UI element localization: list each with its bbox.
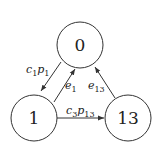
edge-label-e13: e13 [88, 79, 105, 94]
node-0: 0 [57, 22, 103, 68]
node-1: 1 [11, 95, 57, 141]
edge-label-c3p13: c3p13 [66, 104, 95, 119]
node-1-label: 1 [29, 108, 40, 128]
node-13: 13 [105, 95, 151, 141]
node-13-label: 13 [117, 108, 139, 128]
edge-label-c1p1: c1p1 [26, 63, 49, 78]
edge-label-e1: e1 [65, 79, 77, 94]
node-0-label: 0 [75, 35, 86, 55]
state-diagram: c1p1 e1 e13 c3p13 0 1 13 [0, 0, 161, 151]
